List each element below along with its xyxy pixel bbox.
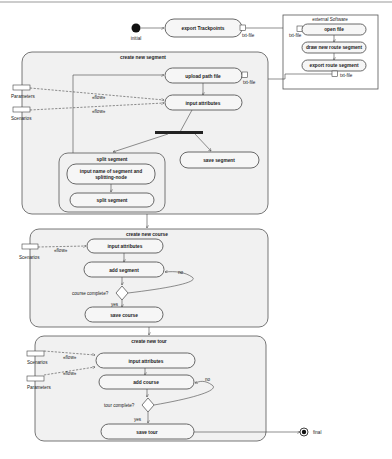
action-save-tour[interactable]: save tour (101, 424, 194, 439)
action-open-file[interactable]: open file (302, 24, 366, 35)
pin-export-out (240, 25, 246, 31)
draw-segment-label: draw new route segment (306, 45, 363, 50)
save-segment-label: save segment (203, 158, 235, 163)
course-region-title: create new course (126, 232, 168, 237)
split-segment-title: split segment (97, 157, 128, 162)
open-file-label: open file (324, 27, 344, 32)
action-export-trackpoints[interactable]: export Trackpoints (165, 19, 242, 37)
tour-flow-label-2: «flow» (63, 371, 77, 376)
export-segment-label: export route segment (309, 63, 358, 68)
action-export-route-segment[interactable]: export route segment (302, 60, 366, 71)
flow-label-1: «flow» (92, 95, 106, 100)
input-name-line2: splitting-node (95, 175, 127, 180)
action-input-attributes-tour[interactable]: input attributes (96, 353, 195, 368)
flow-label-2: «flow» (92, 109, 106, 114)
pin-upload-in (242, 72, 248, 78)
pin-openfile-in-label: txt-file (289, 33, 302, 38)
action-add-segment[interactable]: add segment (84, 262, 164, 277)
parameters-label: Parameters (11, 94, 35, 99)
input-name-line1: input name of segment and (80, 169, 142, 174)
export-trackpoints-label: export Trackpoints (182, 26, 225, 31)
action-add-course[interactable]: add course (99, 375, 194, 389)
pin-export-segment-out-label: txt-file (340, 73, 353, 78)
course-scenarios-label: Scenarios (19, 255, 40, 260)
action-input-attributes-segment[interactable]: input attributes (165, 95, 242, 110)
action-save-segment[interactable]: save segment (180, 152, 259, 168)
action-input-name-of-segment[interactable]: input name of segment and splitting-node (67, 164, 155, 184)
add-segment-label: add segment (109, 268, 139, 273)
pin-export-out-label: txt-file (242, 33, 255, 38)
add-course-label: add course (133, 380, 159, 385)
action-upload-path-file[interactable]: upload path file (165, 68, 242, 83)
input-attributes-label: input attributes (186, 101, 221, 106)
action-save-course[interactable]: save course (85, 307, 163, 322)
action-split-segment[interactable]: split segment (70, 193, 154, 207)
initial-label: initial (131, 36, 141, 41)
tour-no-label: no (205, 377, 211, 382)
tour-region-title: create new tour (131, 339, 167, 344)
tour-input-attributes-label: input attributes (129, 359, 164, 364)
final-node[interactable]: final (300, 428, 321, 436)
final-label: final (313, 430, 321, 435)
pin-export-segment-out (332, 71, 338, 77)
pin-upload-in-label: txt-file (243, 80, 256, 85)
fork-bar (155, 131, 203, 134)
tour-parameters-label: Parameters (27, 385, 51, 390)
course-yes-label: yes (111, 302, 119, 307)
split-segment-label: split segment (97, 198, 128, 203)
segment-region-title: create new segment (120, 55, 166, 60)
course-input-attributes-label: input attributes (108, 244, 143, 249)
course-decision-label: course complete? (72, 291, 109, 296)
tour-decision-label: tour complete? (104, 403, 135, 408)
save-course-label: save course (110, 313, 138, 318)
initial-node[interactable]: initial (131, 24, 141, 42)
tour-scenarios-label: Scenarios (27, 360, 48, 365)
external-software-title: external Software (312, 17, 348, 22)
action-draw-new-route-segment[interactable]: draw new route segment (302, 42, 366, 53)
tour-yes-label: yes (134, 417, 142, 422)
course-no-label: no (178, 270, 184, 275)
activity-diagram: initial export Trackpoints txt-file exte… (0, 0, 392, 459)
action-input-attributes-course[interactable]: input attributes (87, 239, 163, 253)
scenarios-label: Scenarios (11, 116, 32, 121)
tour-flow-label-1: «flow» (63, 355, 77, 360)
save-tour-label: save tour (136, 430, 157, 435)
course-flow-label: «flow» (54, 248, 68, 253)
upload-path-file-label: upload path file (185, 74, 221, 79)
